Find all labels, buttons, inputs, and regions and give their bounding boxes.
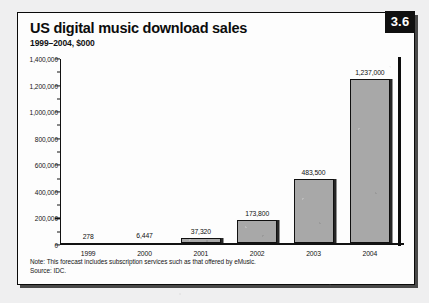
y-axis-tick-label: 1,000,000	[0, 109, 58, 116]
bar-value-label: 37,320	[191, 228, 211, 235]
plot-right-border	[398, 57, 401, 246]
footnote-note: Note: This forecast includes subscriptio…	[30, 258, 256, 267]
x-axis-category-label: 2003	[285, 250, 341, 257]
y-axis-tick-label: 200,000	[0, 215, 58, 222]
title-block: US digital music download sales 1999–200…	[30, 20, 247, 48]
y-axis-tick-label: 1,400,000	[0, 56, 58, 63]
bar[interactable]	[237, 220, 277, 243]
bar-value-label: 278	[83, 233, 94, 240]
plot-region: 0200,000400,000600,000800,0001,000,0001,…	[30, 57, 404, 249]
bar-group: 483,500	[294, 57, 334, 243]
bar-group: 6,447	[125, 57, 165, 243]
y-axis-tick-label: 400,000	[0, 188, 58, 195]
bar-value-label: 6,447	[136, 232, 153, 239]
x-axis-category-label: 1999	[60, 250, 116, 257]
y-axis-tick-label: 0	[0, 242, 58, 249]
x-axis-category-label: 2002	[229, 250, 285, 257]
bar-value-label: 1,237,000	[355, 69, 384, 76]
bar[interactable]	[181, 238, 221, 243]
bars-layer: 2786,44737,320173,800483,5001,237,000	[60, 57, 398, 243]
x-axis-category-label: 2001	[173, 250, 229, 257]
figure-frame: 3.6 US digital music download sales 1999…	[17, 12, 415, 285]
footnotes: Note: This forecast includes subscriptio…	[30, 258, 256, 275]
bar-value-label: 483,500	[302, 169, 326, 176]
y-axis-tick-label: 600,000	[0, 162, 58, 169]
bar-group: 1,237,000	[350, 57, 390, 243]
bar-group: 173,800	[237, 57, 277, 243]
bar[interactable]	[350, 79, 390, 243]
x-axis-category-label: 2000	[116, 250, 172, 257]
x-axis-line	[60, 243, 404, 245]
chart-subtitle: 1999–2004, $000	[30, 38, 247, 48]
footnote-source: Source: IDC.	[30, 267, 256, 276]
y-axis-tick-mark	[55, 244, 60, 245]
chart-title: US digital music download sales	[30, 20, 247, 36]
bar-value-label: 173,800	[245, 210, 269, 217]
figure-number-text: 3.6	[391, 14, 410, 29]
bar-group: 278	[68, 57, 108, 243]
bar-group: 37,320	[181, 57, 221, 243]
y-axis-tick-label: 1,200,000	[0, 82, 58, 89]
y-axis-tick-label: 800,000	[0, 135, 58, 142]
figure-number-badge: 3.6	[385, 11, 415, 33]
bar[interactable]	[294, 179, 334, 243]
x-axis-category-label: 2004	[342, 250, 398, 257]
